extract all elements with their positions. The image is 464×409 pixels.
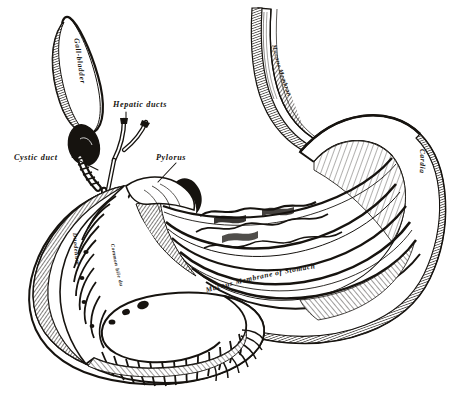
anatomical-plate: Gall-bladder Hepatic ducts Cystic duct P… — [0, 0, 464, 409]
label-pylorus: Pylorus — [156, 153, 186, 162]
label-hepatic-ducts: Hepatic ducts — [112, 100, 167, 109]
label-cystic-duct: Cystic duct — [14, 153, 58, 162]
label-cardia: Cardia — [418, 149, 428, 174]
